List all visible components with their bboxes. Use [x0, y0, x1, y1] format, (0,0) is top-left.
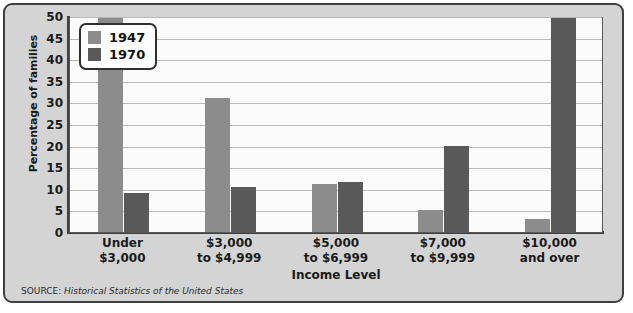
bar-1970-0: [124, 193, 149, 232]
legend-swatch-1970: [88, 48, 101, 61]
gridline: [70, 125, 602, 126]
y-tick-label: 50: [17, 10, 63, 24]
x-tick-label-line: $5,000: [283, 236, 390, 251]
x-tick-label-line: to $6,999: [283, 251, 390, 266]
gridline: [70, 103, 602, 104]
x-tick-label-line: Under: [69, 236, 176, 251]
x-tick-label: $7,000to $9,999: [389, 236, 496, 266]
x-tick-label: $3,000to $4,999: [176, 236, 283, 266]
bar-1947-3: [418, 210, 443, 232]
bar-1970-1: [231, 187, 256, 232]
x-tick-label: $5,000to $6,999: [283, 236, 390, 266]
bar-1970-3: [444, 146, 469, 232]
chart-legend: 1947 1970: [79, 23, 157, 70]
x-tick-label-line: $3,000: [176, 236, 283, 251]
x-tick-label-line: to $9,999: [389, 251, 496, 266]
x-axis-title: Income Level: [69, 268, 603, 282]
y-tick-label: 25: [17, 118, 63, 132]
y-tick-label: 30: [17, 96, 63, 110]
x-tick-label-line: $3,000: [69, 251, 176, 266]
source-text: Historical Statistics of the United Stat…: [64, 286, 243, 296]
x-tick-label-line: and over: [496, 251, 603, 266]
source-prefix: SOURCE:: [21, 286, 61, 296]
legend-item-1947: 1947: [88, 29, 145, 46]
y-tick-label: 35: [17, 75, 63, 89]
x-tick-label: $10,000and over: [496, 236, 603, 266]
y-tick-label: 15: [17, 161, 63, 175]
y-axis-tick-labels: 05101520253035404550: [13, 5, 63, 301]
gridline: [70, 168, 602, 169]
gridline: [70, 17, 602, 18]
source-note: SOURCE: Historical Statistics of the Uni…: [21, 286, 243, 296]
x-tick-label-line: to $4,999: [176, 251, 283, 266]
bar-1970-2: [338, 182, 363, 232]
gridline: [70, 147, 602, 148]
x-tick-label-line: $10,000: [496, 236, 603, 251]
y-tick-label: 5: [17, 204, 63, 218]
y-tick-label: 20: [17, 140, 63, 154]
legend-swatch-1947: [88, 31, 101, 44]
x-tick-label-line: $7,000: [389, 236, 496, 251]
legend-label-1970: 1970: [109, 47, 145, 62]
x-tick-label: Under$3,000: [69, 236, 176, 266]
bar-1947-1: [205, 98, 230, 232]
y-tick-label: 0: [17, 226, 63, 240]
bar-1947-2: [312, 184, 337, 232]
y-tick-label: 40: [17, 53, 63, 67]
legend-label-1947: 1947: [109, 30, 145, 45]
legend-item-1970: 1970: [88, 46, 145, 63]
gridline: [70, 82, 602, 83]
chart-figure: Percentage of families 05101520253035404…: [3, 3, 624, 303]
bar-1970-4: [551, 18, 576, 232]
bar-1947-4: [525, 219, 550, 232]
y-tick-label: 10: [17, 183, 63, 197]
y-tick-label: 45: [17, 32, 63, 46]
